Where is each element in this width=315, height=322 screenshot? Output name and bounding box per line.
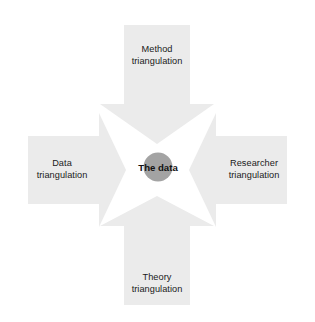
center-circle bbox=[144, 153, 173, 182]
arrow-shape-method bbox=[100, 25, 214, 144]
arrow-shape-researcher bbox=[189, 113, 287, 227]
arrow-shape-data bbox=[28, 113, 126, 227]
diagram-shapes bbox=[0, 0, 315, 322]
triangulation-diagram: Method triangulation Data triangulation … bbox=[0, 0, 315, 322]
arrow-shape-theory bbox=[100, 196, 214, 305]
